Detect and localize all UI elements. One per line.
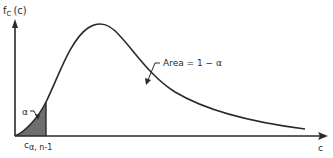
area-label: Area = 1 − α <box>163 58 222 68</box>
alpha-leader <box>30 111 37 117</box>
y-axis-arrow-icon <box>12 19 18 28</box>
area-leader-arrow-icon <box>145 78 151 85</box>
x-axis-label: c <box>318 143 323 153</box>
y-axis-label: fC(c) <box>3 5 27 18</box>
shaded-alpha-region <box>15 102 46 136</box>
density-diagram: fC(c) c cα, n-1 α Area = 1 − α <box>0 0 333 158</box>
alpha-label: α <box>22 107 28 117</box>
density-curve <box>15 24 305 136</box>
critical-value-label: cα, n-1 <box>24 140 52 152</box>
